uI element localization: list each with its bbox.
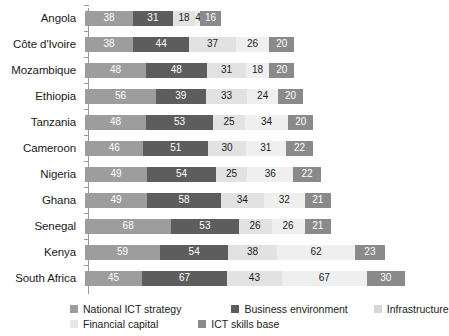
stacked-bar: 3844372620 [85, 37, 294, 52]
plot-area: Angola383118416Côte d'Ivoire3844372620Mo… [0, 0, 425, 297]
bar-segment: 48 [146, 63, 207, 78]
bar-segment: 21 [305, 193, 332, 208]
chart-legend: National ICT strategyBusiness environmen… [0, 297, 425, 336]
bar-segment: 54 [147, 167, 216, 182]
stacked-bar: 6853262621 [85, 219, 331, 234]
bar-segment: 49 [85, 193, 147, 208]
bar-segment: 22 [286, 141, 314, 156]
bar-segment: 20 [288, 115, 313, 130]
bar-row: Ghana4958343221 [0, 187, 425, 213]
bar-segment: 23 [355, 245, 384, 260]
stacked-bar: 4853253420 [85, 115, 313, 130]
stacked-bar: 4954253622 [85, 167, 321, 182]
square-swatch-icon [70, 320, 78, 328]
bar-segment: 45 [85, 271, 142, 286]
category-label: Cameroon [0, 142, 84, 154]
bar-segment: 58 [147, 193, 221, 208]
category-label: Tanzania [0, 116, 84, 128]
legend-item-national-ict-strategy[interactable]: National ICT strategy [70, 303, 181, 315]
bar-row: Ethiopia5639332420 [0, 83, 425, 109]
legend-item-ict-skills-base[interactable]: ICT skills base [198, 318, 279, 330]
bar-row: Mozambique4848311820 [0, 57, 425, 83]
square-swatch-icon [374, 305, 382, 313]
bar-row: South Africa4567436730 [0, 265, 425, 291]
bar-segment: 34 [245, 115, 288, 130]
axis-tick [84, 239, 89, 240]
bar-row: Senegal6853262621 [0, 213, 425, 239]
square-swatch-icon [198, 320, 206, 328]
bar-segment: 43 [227, 271, 282, 286]
bar-segment: 21 [305, 219, 332, 234]
bar-segment: 48 [85, 115, 146, 130]
bar-row: Côte d'Ivoire3844372620 [0, 31, 425, 57]
bar-segment: 34 [221, 193, 264, 208]
axis-tick [84, 213, 89, 214]
bar-segment: 53 [171, 219, 238, 234]
category-label: Angola [0, 12, 84, 24]
bar-segment: 54 [160, 245, 229, 260]
bar-segment: 30 [367, 271, 405, 286]
bar-segment: 49 [85, 167, 147, 182]
legend-item-financial-capital[interactable]: Financial capital [70, 318, 158, 330]
bar-segment: 37 [189, 37, 236, 52]
category-label: Mozambique [0, 64, 84, 76]
bar-segment: 67 [282, 271, 367, 286]
bar-segment: 38 [85, 11, 133, 26]
bar-segment: 31 [207, 63, 246, 78]
axis-tick [84, 187, 89, 188]
stacked-bar: 4958343221 [85, 193, 331, 208]
bar-segment: 53 [146, 115, 213, 130]
axis-tick [84, 57, 89, 58]
bar-segment: 22 [293, 167, 321, 182]
bar-segment: 67 [142, 271, 227, 286]
bar-segment: 26 [236, 37, 269, 52]
bar-segment: 51 [143, 141, 208, 156]
legend-label: Financial capital [83, 318, 158, 330]
stacked-bar: 4651303122 [85, 141, 313, 156]
legend-label: Business environment [244, 303, 347, 315]
legend-label: National ICT strategy [83, 303, 181, 315]
category-label: Ethiopia [0, 90, 84, 102]
category-label: Senegal [0, 220, 84, 232]
bar-segment: 32 [264, 193, 305, 208]
bar-segment: 38 [85, 37, 133, 52]
legend-item-infrastructure[interactable]: Infrastructure [374, 303, 449, 315]
bar-row: Kenya5954386223 [0, 239, 425, 265]
bar-segment: 38 [228, 245, 276, 260]
bar-segment: 59 [85, 245, 160, 260]
bar-segment: 56 [85, 89, 156, 104]
axis-tick [84, 135, 89, 136]
axis-tick [84, 5, 89, 6]
bar-segment: 48 [85, 63, 146, 78]
stacked-bar: 5954386223 [85, 245, 385, 260]
square-swatch-icon [231, 305, 239, 313]
axis-tick [84, 161, 89, 162]
bar-segment: 46 [85, 141, 143, 156]
bar-segment: 18 [173, 11, 196, 26]
bar-segment: 62 [277, 245, 356, 260]
bar-segment: 20 [278, 89, 303, 104]
bar-segment: 25 [213, 115, 245, 130]
bar-row: Cameroon4651303122 [0, 135, 425, 161]
axis-tick [84, 31, 89, 32]
bar-segment: 18 [246, 63, 269, 78]
axis-tick [84, 265, 89, 266]
bar-segment: 33 [206, 89, 248, 104]
bar-segment: 39 [156, 89, 206, 104]
bar-segment: 20 [269, 63, 294, 78]
bar-segment: 20 [269, 37, 294, 52]
bar-row: Angola383118416 [0, 5, 425, 31]
bar-segment: 25 [216, 167, 248, 182]
square-swatch-icon [70, 305, 78, 313]
axis-tick [84, 83, 89, 84]
bar-segment: 31 [133, 11, 172, 26]
legend-row: Financial capitalICT skills base [70, 316, 425, 331]
legend-label: Infrastructure [387, 303, 449, 315]
axis-tick [84, 109, 89, 110]
bar-segment: 30 [208, 141, 246, 156]
legend-item-business-environment[interactable]: Business environment [231, 303, 347, 315]
bar-row: Nigeria4954253622 [0, 161, 425, 187]
bar-segment: 44 [133, 37, 189, 52]
category-label: Ghana [0, 194, 84, 206]
